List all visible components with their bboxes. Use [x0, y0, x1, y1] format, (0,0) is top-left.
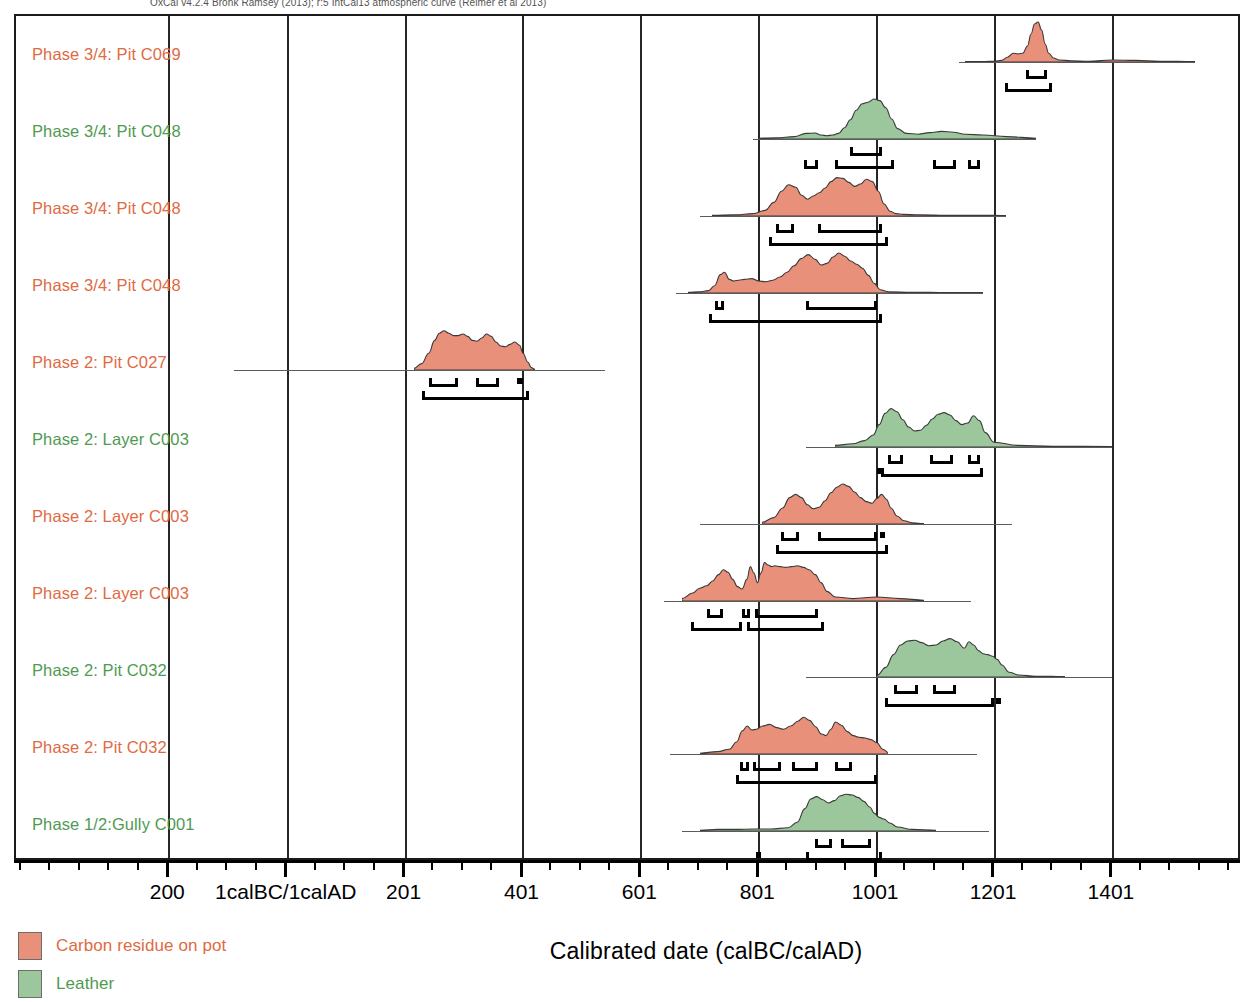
range-bar-95 [709, 314, 882, 323]
probability-distribution [414, 328, 535, 370]
axis-tick-label: 1calBC/1calAD [215, 880, 356, 904]
axis-tick-minor [1168, 860, 1170, 870]
distribution-row: Phase 3/4: Pit C069 [16, 16, 1238, 93]
axis-tick-minor [225, 860, 227, 870]
axis-tick-minor [844, 860, 846, 870]
axis-tick-label: 601 [622, 880, 657, 904]
range-bar-68 [776, 224, 794, 233]
range-bar-95 [835, 160, 894, 169]
range-bar-68 [835, 762, 852, 771]
probability-distribution [835, 405, 1112, 447]
range-bar-68 [818, 224, 883, 233]
axis-tick-minor [431, 860, 433, 870]
range-bar-68 [429, 378, 458, 387]
row-label-5: Phase 2: Layer C003 [32, 429, 189, 448]
range-bar-95 [1005, 83, 1052, 92]
distribution-row: Phase 1/2:Gully C001 [16, 785, 1238, 862]
row-label-6: Phase 2: Layer C003 [32, 506, 189, 525]
row-label-2: Phase 3/4: Pit C048 [32, 199, 181, 218]
axis-tick-minor [785, 860, 787, 870]
axis-tick-major [402, 860, 405, 877]
distribution-baseline [670, 754, 977, 755]
range-bar-68 [740, 762, 749, 771]
axis-tick-minor [1139, 860, 1141, 870]
row-label-0: Phase 3/4: Pit C069 [32, 45, 181, 64]
axis-tick-minor [196, 860, 198, 870]
range-bar-68 [707, 609, 724, 618]
axis-tick-major [520, 860, 523, 877]
distribution-row: Phase 2: Pit C032 [16, 708, 1238, 785]
row-label-4: Phase 2: Pit C027 [32, 353, 167, 372]
axis-tick-minor [373, 860, 375, 870]
axis-tick-minor [107, 860, 109, 870]
range-bar-95 [691, 622, 742, 631]
range-bar-68 [850, 147, 882, 156]
axis-tick-major [166, 860, 169, 877]
distribution-row: Phase 3/4: Pit C048 [16, 247, 1238, 324]
x-axis-title: Calibrated date (calBC/calAD) [0, 938, 1252, 965]
distribution-row: Phase 2: Pit C027 [16, 324, 1238, 401]
distribution-baseline [700, 524, 1012, 525]
range-bar-68 [806, 301, 877, 310]
axis-tick-minor [314, 860, 316, 870]
row-label-3: Phase 3/4: Pit C048 [32, 276, 181, 295]
axis-tick-minor [461, 860, 463, 870]
axis-tick-label: 1201 [970, 880, 1017, 904]
range-bar-68 [792, 762, 818, 771]
plot-area: Phase 3/4: Pit C069Phase 3/4: Pit C048Ph… [14, 14, 1240, 860]
range-bar-68 [517, 378, 523, 384]
axis-tick-label: 801 [740, 880, 775, 904]
axis-tick-minor [962, 860, 964, 870]
axis-tick-label: 201 [386, 880, 421, 904]
axis-line [14, 860, 1240, 863]
axis-tick-minor [1227, 860, 1229, 870]
probability-distribution [965, 20, 1195, 62]
distribution-row: Phase 2: Layer C003 [16, 401, 1238, 478]
distribution-baseline [664, 601, 971, 602]
axis-tick-label: 1401 [1088, 880, 1135, 904]
probability-distribution [700, 789, 936, 831]
axis-tick-minor [1021, 860, 1023, 870]
axis-tick-minor [933, 860, 935, 870]
range-bar-68 [841, 839, 870, 848]
axis-tick-major [991, 860, 994, 877]
axis-tick-minor [343, 860, 345, 870]
range-bar-95 [769, 237, 888, 246]
distribution-baseline [682, 831, 989, 832]
range-bar-68 [742, 609, 750, 618]
range-bar-95 [885, 698, 994, 707]
range-bar-68 [880, 532, 886, 538]
probability-distribution [762, 482, 924, 524]
distribution-row: Phase 2: Pit C032 [16, 631, 1238, 708]
distribution-row: Phase 3/4: Pit C048 [16, 170, 1238, 247]
range-bar-68 [781, 532, 799, 541]
range-bar-95 [736, 775, 876, 784]
axis-tick-label: 1001 [852, 880, 899, 904]
row-label-9: Phase 2: Pit C032 [32, 737, 167, 756]
axis-tick-label: 401 [504, 880, 539, 904]
range-bar-95 [747, 622, 824, 631]
distribution-row: Phase 3/4: Pit C048 [16, 93, 1238, 170]
axis-tick-minor [78, 860, 80, 870]
probability-distribution [700, 712, 889, 754]
probability-distribution [682, 559, 924, 601]
legend-item: Leather [18, 968, 438, 1000]
range-bar-95 [968, 160, 980, 169]
axis-tick-minor [697, 860, 699, 870]
probability-distribution [688, 251, 983, 293]
range-bar-68 [476, 378, 500, 387]
probability-distribution [877, 635, 1066, 677]
row-label-1: Phase 3/4: Pit C048 [32, 122, 181, 141]
range-bar-68 [755, 609, 817, 618]
range-bar-95 [422, 391, 529, 400]
distribution-baseline [959, 62, 1195, 63]
range-bar-95 [804, 160, 818, 169]
range-bar-95 [933, 160, 957, 169]
range-bar-68 [753, 762, 781, 771]
axis-tick-major [874, 860, 877, 877]
axis-tick-minor [1080, 860, 1082, 870]
distribution-baseline [676, 293, 983, 294]
distribution-row: Phase 2: Layer C003 [16, 477, 1238, 554]
range-bar-68 [815, 839, 833, 848]
range-bar-68 [888, 455, 903, 464]
